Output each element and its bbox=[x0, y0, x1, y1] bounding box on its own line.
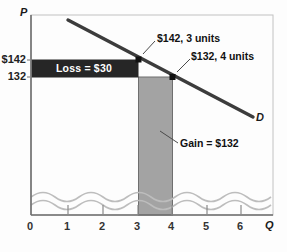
x-tick-label-3: 3 bbox=[134, 220, 140, 232]
gain-rectangle bbox=[139, 77, 173, 215]
leader-line-142 bbox=[143, 41, 155, 54]
point-label-142: $142, 3 units bbox=[157, 32, 220, 44]
marker-point-132 bbox=[170, 74, 176, 80]
marker-point-142 bbox=[136, 57, 142, 63]
y-tick-label-132: 132 bbox=[0, 70, 26, 82]
x-tick-label-5: 5 bbox=[203, 220, 209, 232]
x-tick-label-6: 6 bbox=[237, 220, 243, 232]
gain-region-label: Gain = $132 bbox=[180, 137, 239, 149]
y-tick-label-142: $142 bbox=[0, 53, 26, 65]
point-label-132: $132, 4 units bbox=[191, 50, 254, 62]
demand-curve-label: D bbox=[256, 111, 264, 123]
y-axis-title: P bbox=[20, 6, 27, 18]
x-tick-label-1: 1 bbox=[64, 220, 70, 232]
x-tick-label-4: 4 bbox=[168, 220, 174, 232]
x-tick-label-0: 0 bbox=[27, 220, 33, 232]
x-tick-label-2: 2 bbox=[99, 220, 105, 232]
demand-curve-chart: P Q $142 132 0 1 2 3 4 5 6 Loss = $30 Ga… bbox=[0, 0, 287, 252]
chart-canvas bbox=[0, 0, 287, 252]
leader-line-132 bbox=[177, 59, 190, 72]
x-axis-title: Q bbox=[265, 219, 274, 231]
loss-region-label: Loss = $30 bbox=[56, 62, 112, 74]
